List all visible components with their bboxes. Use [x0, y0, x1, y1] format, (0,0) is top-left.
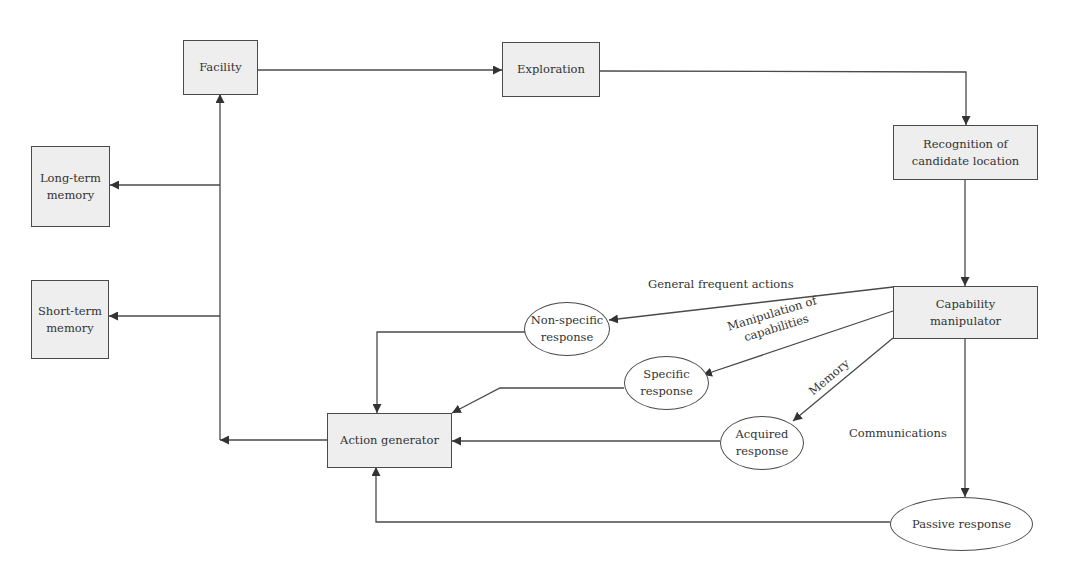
specific-label-line1: Specific	[640, 366, 693, 383]
edge-label-general-frequent-actions: General frequent actions	[648, 277, 794, 292]
long-term-memory-box: Long-term memory	[31, 146, 110, 227]
passive-response-node: Passive response	[890, 497, 1033, 551]
capability-manipulator-box: Capability manipulator	[893, 286, 1038, 339]
recognition-box: Recognition of candidate location	[893, 125, 1038, 180]
non-specific-label-line2: response	[531, 329, 604, 346]
edge-label-communications: Communications	[849, 426, 947, 441]
exploration-box: Exploration	[502, 42, 600, 97]
passive-response-label: Passive response	[912, 516, 1011, 533]
specific-label-line2: response	[640, 383, 693, 400]
acquired-label-line2: response	[736, 443, 789, 460]
action-generator-box: Action generator	[327, 413, 452, 468]
long-term-label-line2: memory	[40, 187, 101, 204]
diagram-canvas: Facility Exploration Recognition of cand…	[0, 0, 1068, 576]
capability-label-line2: manipulator	[930, 313, 1001, 330]
short-term-memory-box: Short-term memory	[31, 280, 109, 359]
capability-label-line1: Capability	[930, 296, 1001, 313]
edge-capability-acquired	[793, 338, 893, 421]
short-term-label-line2: memory	[38, 320, 102, 337]
edge-passive-action	[376, 467, 890, 522]
non-specific-response-node: Non-specific response	[524, 302, 610, 356]
edge-exploration-recognition	[600, 71, 966, 125]
facility-label: Facility	[199, 59, 242, 76]
edge-nonspecific-action	[377, 332, 525, 413]
facility-box: Facility	[183, 40, 258, 95]
action-generator-label: Action generator	[340, 432, 439, 449]
exploration-label: Exploration	[517, 61, 585, 78]
edge-specific-action	[452, 388, 624, 413]
acquired-label-line1: Acquired	[736, 426, 789, 443]
long-term-label-line1: Long-term	[40, 170, 101, 187]
recognition-label-line1: Recognition of	[912, 136, 1020, 153]
specific-response-node: Specific response	[624, 356, 709, 410]
short-term-label-line1: Short-term	[38, 303, 102, 320]
recognition-label-line2: candidate location	[912, 153, 1020, 170]
non-specific-label-line1: Non-specific	[531, 312, 604, 329]
acquired-response-node: Acquired response	[720, 416, 804, 470]
